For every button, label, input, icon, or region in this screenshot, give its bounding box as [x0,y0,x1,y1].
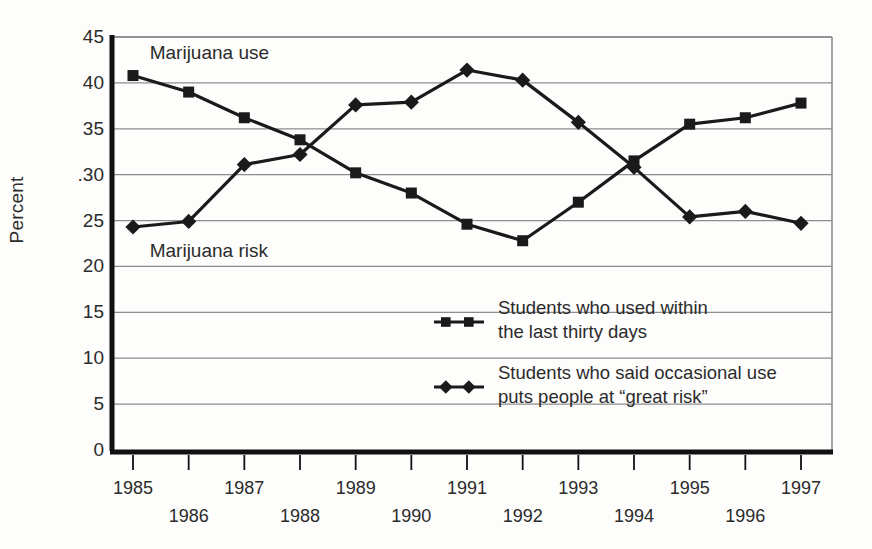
legend-item-risk: Students who said occasional useputs peo… [432,361,777,410]
data-point-marker [239,112,250,123]
data-point-marker [517,235,528,246]
legend-label-use: Students who used withinthe last thirty … [498,296,708,345]
data-point-marker [406,188,417,199]
data-point-marker [295,134,306,145]
legend-swatch-diamond-icon [432,367,486,407]
legend-label-use-line2: the last thirty days [498,321,647,342]
data-point-marker [350,167,361,178]
data-series-use [128,70,807,246]
data-point-marker [793,216,808,231]
data-point-marker [459,62,474,77]
data-point-marker [462,219,473,230]
data-point-marker [125,219,140,234]
data-point-marker [183,87,194,98]
data-point-marker [573,197,584,208]
chart-legend: Students who used withinthe last thirty … [432,296,777,426]
series-line [133,70,801,227]
data-point-marker [740,112,751,123]
data-series-risk [125,62,808,234]
data-point-marker [128,70,139,81]
data-point-marker [796,98,807,109]
legend-label-risk-line1: Students who said occasional use [498,362,777,383]
data-point-marker [738,204,753,219]
legend-label-risk: Students who said occasional useputs peo… [498,361,777,410]
legend-label-risk-line2: puts people at “great risk” [498,386,708,407]
x-axis-ticks [133,455,801,470]
legend-swatch-square-icon [432,302,486,342]
data-point-marker [404,95,419,110]
legend-item-use: Students who used withinthe last thirty … [432,296,777,345]
legend-label-use-line1: Students who used within [498,297,708,318]
plot-area [0,0,872,549]
data-point-marker [684,119,695,130]
chart-figure: Percent 0510152025.30354045 198519861987… [0,0,872,549]
